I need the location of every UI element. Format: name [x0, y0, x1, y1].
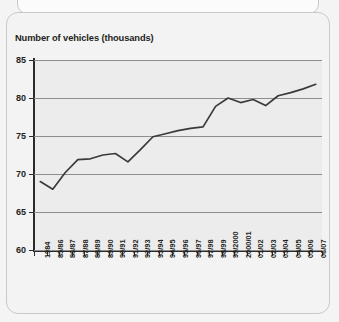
y-axis-label: 70 — [2, 169, 26, 179]
y-axis-label: 75 — [2, 131, 26, 141]
chart-page: Number of vehicles (thousands) 606570758… — [0, 0, 339, 322]
line-series — [34, 60, 322, 250]
gridline — [34, 250, 322, 251]
chart-title: Number of vehicles (thousands) — [15, 33, 154, 43]
x-tick — [34, 251, 35, 256]
y-axis-label: 85 — [2, 55, 26, 65]
y-axis-label: 60 — [2, 245, 26, 255]
series-polyline — [40, 84, 315, 189]
y-axis-label: 80 — [2, 93, 26, 103]
y-axis-label: 65 — [2, 207, 26, 217]
